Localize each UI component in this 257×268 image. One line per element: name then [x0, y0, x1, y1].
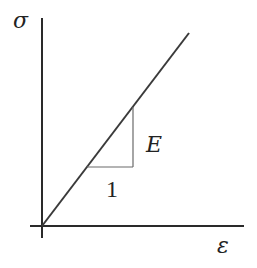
- x-axis-label: ε: [217, 233, 229, 258]
- slope-run-label: 1: [106, 176, 118, 202]
- stress-strain-diagram: σ E 1 ε: [0, 0, 257, 268]
- y-axis-label: σ: [13, 8, 29, 33]
- slope-rise-label: E: [145, 132, 162, 157]
